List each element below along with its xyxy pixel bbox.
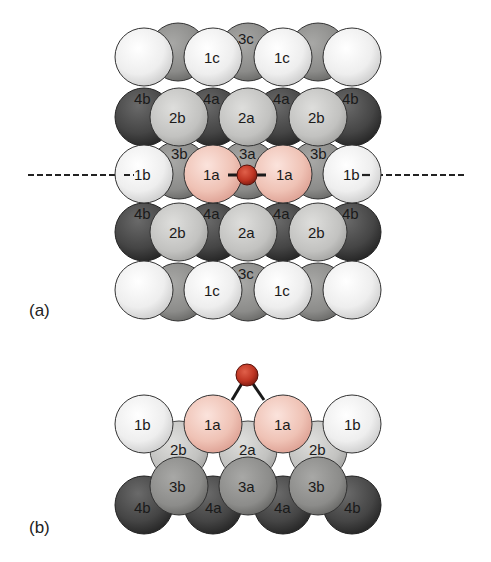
label-1b: 1b — [134, 166, 151, 183]
label-4a: 4a — [273, 90, 290, 107]
label-2b: 2b — [309, 441, 326, 458]
label-3b: 3b — [310, 145, 327, 162]
label-3a: 3a — [238, 478, 255, 495]
atom-surface — [323, 28, 381, 86]
label-1b: 1b — [134, 416, 151, 433]
label-2b: 2b — [169, 109, 186, 126]
label-3b: 3b — [171, 145, 188, 162]
label-1a: 1a — [274, 416, 291, 433]
panel-b: 4b 4a 4a 4b 3b 3a 3b 2b 2a 2b 1b 1a 1a 1… — [29, 364, 381, 537]
oxygen-atom — [236, 364, 258, 386]
label-4a: 4a — [273, 205, 290, 222]
atom-surface — [115, 261, 173, 319]
panel-a-label: (a) — [29, 301, 50, 320]
label-4b: 4b — [344, 499, 361, 516]
label-3a: 3a — [239, 145, 256, 162]
label-2a: 2a — [239, 441, 256, 458]
label-2b: 2b — [308, 109, 325, 126]
label-4a: 4a — [205, 499, 222, 516]
label-1b: 1b — [344, 416, 361, 433]
atom-surface — [323, 261, 381, 319]
atom-surface — [115, 28, 173, 86]
label-4a: 4a — [274, 499, 291, 516]
label-3b: 3b — [169, 478, 186, 495]
label-2b: 2b — [169, 224, 186, 241]
label-4b: 4b — [134, 499, 151, 516]
label-4b: 4b — [134, 90, 151, 107]
oxygen-atom — [237, 165, 257, 185]
label-1c: 1c — [204, 282, 220, 299]
label-4b: 4b — [134, 205, 151, 222]
label-1b: 1b — [343, 166, 360, 183]
label-2a: 2a — [238, 109, 255, 126]
label-2a: 2a — [238, 224, 255, 241]
label-1c: 1c — [274, 49, 290, 66]
label-1c: 1c — [274, 282, 290, 299]
panel-a: 3c 4b 4a 4a 4b 1c 1c 2b 2a 2b 3b 3a 3b 1… — [28, 23, 465, 321]
label-1a: 1a — [203, 166, 220, 183]
label-1a: 1a — [204, 416, 221, 433]
label-3b: 3b — [308, 478, 325, 495]
label-1a: 1a — [276, 166, 293, 183]
label-1c: 1c — [204, 49, 220, 66]
label-2b: 2b — [308, 224, 325, 241]
label-2b: 2b — [170, 441, 187, 458]
surface-diagram: 3c 4b 4a 4a 4b 1c 1c 2b 2a 2b 3b 3a 3b 1… — [0, 0, 491, 562]
label-3c: 3c — [238, 30, 254, 47]
panel-b-label: (b) — [29, 518, 50, 537]
